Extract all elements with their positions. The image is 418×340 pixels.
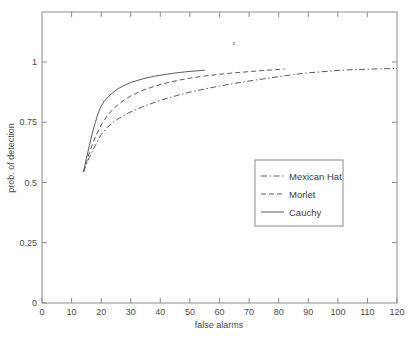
- series-cauchy: [83, 70, 204, 172]
- y-tick-marks: [42, 62, 47, 303]
- y-tick-labels: 0 0.25 0.5 0.75 1: [19, 57, 37, 308]
- legend-label-mexican-hat: Mexican Hat: [289, 171, 342, 182]
- x-tick-label: 120: [389, 307, 404, 317]
- y-axis-title: prob. of detection: [6, 123, 16, 193]
- y-tick-label: 0.25: [19, 238, 37, 248]
- x-tick-label: 40: [155, 307, 165, 317]
- x-tick-label: 30: [126, 307, 136, 317]
- series-morlet: [83, 69, 284, 172]
- x-tick-marks-top: [72, 12, 368, 17]
- x-tick-label: 80: [274, 307, 284, 317]
- y-tick-label: 0.5: [24, 178, 37, 188]
- x-tick-label: 50: [185, 307, 195, 317]
- x-tick-label: 60: [214, 307, 224, 317]
- scan-artifact-speck: [233, 42, 235, 45]
- x-tick-label: 90: [303, 307, 313, 317]
- legend-label-cauchy: Cauchy: [289, 207, 321, 218]
- axes-frame: [42, 12, 397, 303]
- roc-chart: 0 10 20 30 40 50 60 70 80 90 100 110 120…: [0, 0, 418, 340]
- y-tick-label: 1: [32, 57, 37, 67]
- legend-label-morlet: Morlet: [289, 189, 316, 200]
- x-tick-label: 70: [244, 307, 254, 317]
- x-tick-marks: [42, 298, 397, 303]
- y-tick-marks-right: [392, 62, 397, 243]
- x-tick-label: 20: [96, 307, 106, 317]
- x-tick-labels: 0 10 20 30 40 50 60 70 80 90 100 110 120: [39, 307, 404, 317]
- x-tick-label: 110: [360, 307, 374, 317]
- legend: Mexican Hat Morlet Cauchy: [255, 160, 343, 226]
- y-tick-label: 0.75: [19, 117, 37, 127]
- x-axis-title: false alarms: [195, 320, 244, 330]
- y-tick-label: 0: [32, 298, 37, 308]
- data-curves: [83, 69, 397, 172]
- x-tick-label: 10: [67, 307, 77, 317]
- series-mexican-hat: [83, 69, 397, 172]
- x-tick-label: 100: [330, 307, 345, 317]
- figure-container: 0 10 20 30 40 50 60 70 80 90 100 110 120…: [0, 0, 418, 340]
- x-tick-label: 0: [39, 307, 44, 317]
